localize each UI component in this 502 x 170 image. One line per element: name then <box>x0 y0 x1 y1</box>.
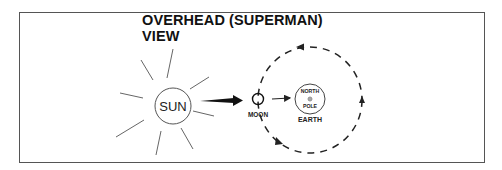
north-pole-star-icon <box>308 97 312 101</box>
sun-label: SUN <box>159 99 186 114</box>
orbit-direction-arrow-icon <box>275 44 365 146</box>
overhead-view-diagram: SUN MOON NORTH POLE EARTH <box>0 0 502 170</box>
sunlight-arrow-icon <box>200 95 243 106</box>
moon-label: MOON <box>248 111 269 118</box>
earth-north-label: NORTH <box>301 88 320 94</box>
earth-label: EARTH <box>298 116 322 123</box>
moon-to-earth-arrow-icon <box>272 98 290 99</box>
earth-pole-label: POLE <box>303 103 318 109</box>
